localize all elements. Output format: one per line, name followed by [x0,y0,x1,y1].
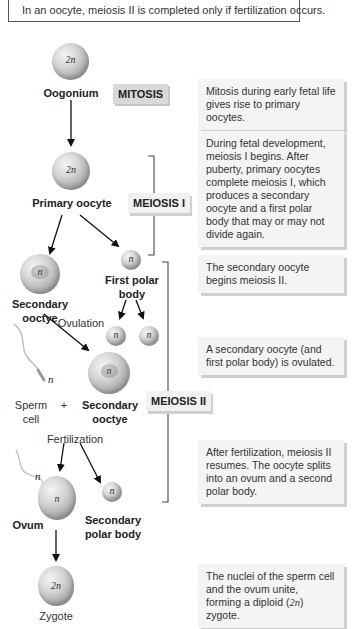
first-polar-body-cell: n [121,250,141,270]
ovum-sperm-ploidy: n [35,470,41,482]
plus-sign: + [58,398,70,412]
description-zygote: The nuclei of the sperm cell and the ovu… [198,564,344,628]
oogonium-cell: 2n [52,43,89,80]
second-polar-body-label: Secondary polar body [82,513,144,541]
description-ovulation: A secondary oocyte (and first polar body… [198,337,344,375]
description-mitosis: Mitosis during early fetal life gives ri… [198,79,344,130]
ovulated-secondary-oocyte-cell: n [88,352,130,394]
mitosis-stage-label: MITOSIS [113,84,168,104]
zygote-label: Zygote [30,609,82,623]
sperm-ploidy: n [48,373,54,385]
ovum-cell: n [38,476,76,520]
polar-body-division-b: n [139,326,159,346]
first-polar-body-label: First polar body [102,273,162,301]
ovum-label: Ovum [10,518,46,532]
meiosis1-stage-label: MEIOSIS I [128,193,190,213]
description-meiosis1: During fetal development, meiosis I begi… [198,131,344,247]
primary-oocyte-cell: 2n [52,152,90,190]
oogonium-label: Oogonium [38,86,104,100]
arrow-primary-to-secondary [50,215,62,253]
primary-oocyte-label: Primary oocyte [22,196,122,210]
description-meiosis2-begins: The secondary oocyte begins meiosis II. [198,255,344,293]
arrow-primary-to-polar [80,215,118,246]
ovulation-label: Ovulation [56,316,106,330]
meiosis2-stage-label: MEIOSIS II [146,391,211,411]
description-fertilization: After fertilization, meiosis II resumes.… [198,440,344,504]
zygote-cell: 2n [38,566,74,606]
ovulated-secondary-oocyte-label: Secondary ooctye [78,398,142,426]
polar-body-division-a: n [106,326,126,346]
fertilization-label: Fertilization [44,432,106,446]
second-polar-body-cell: n [102,482,122,502]
secondary-oocyte-cell: n [20,254,60,294]
sperm-cell-label: Sperm cell [14,398,48,426]
meiosis2-bracket [162,262,168,502]
